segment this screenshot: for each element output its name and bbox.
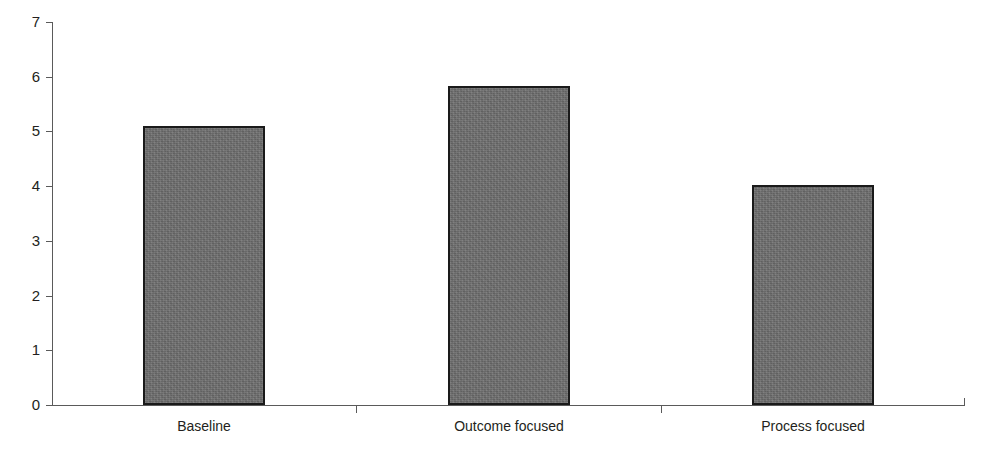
bar xyxy=(448,86,570,405)
x-axis-category-label: Process focused xyxy=(663,419,963,433)
bar xyxy=(752,185,874,405)
y-axis-tick-label: 5 xyxy=(6,123,40,138)
y-axis-line xyxy=(52,22,53,406)
y-axis-tick-label: 3 xyxy=(6,233,40,248)
x-axis-category-label: Outcome focused xyxy=(359,419,659,433)
y-axis-tick-label: 4 xyxy=(6,178,40,193)
y-axis-tick xyxy=(46,241,53,242)
y-axis-tick xyxy=(46,296,53,297)
y-axis-tick-label: 6 xyxy=(6,69,40,84)
x-axis-end-cap xyxy=(964,398,965,406)
y-axis-tick xyxy=(46,77,53,78)
y-axis-tick xyxy=(46,131,53,132)
y-axis-tick-label: 2 xyxy=(6,288,40,303)
x-axis-separator-tick xyxy=(356,405,357,413)
y-axis-tick-label: 0 xyxy=(6,397,40,412)
x-axis-category-label: Baseline xyxy=(54,419,354,433)
x-axis-separator-tick xyxy=(661,405,662,413)
y-axis-tick-label: 1 xyxy=(6,342,40,357)
x-axis-line xyxy=(52,405,965,406)
bar xyxy=(143,126,265,405)
bar-chart: 01234567 BaselineOutcome focusedProcess … xyxy=(0,0,992,460)
y-axis-tick xyxy=(46,186,53,187)
y-axis-tick xyxy=(46,22,53,23)
y-axis-tick xyxy=(46,350,53,351)
y-axis-tick-label: 7 xyxy=(6,14,40,29)
